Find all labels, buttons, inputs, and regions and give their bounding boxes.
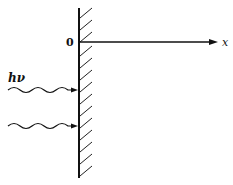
photon-energy-label: hν (8, 71, 26, 85)
photon-arrow-1 (8, 88, 78, 93)
x-axis-arrowhead-icon (209, 39, 218, 45)
x-axis (79, 39, 218, 45)
photoemission-diagram: 0 x hν (0, 0, 233, 185)
arrowhead-icon (71, 124, 78, 129)
x-axis-label: x (222, 36, 229, 49)
photon-arrow-2 (8, 124, 78, 129)
origin-label: 0 (66, 36, 74, 49)
wall-hatching (80, 8, 92, 176)
arrowhead-icon (71, 88, 78, 93)
